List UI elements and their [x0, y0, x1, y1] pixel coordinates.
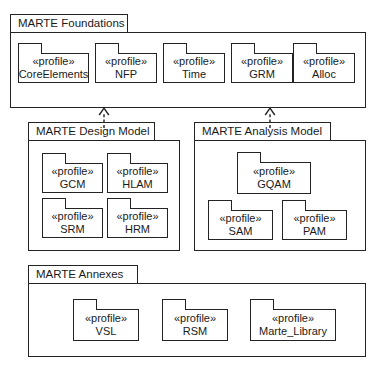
profile-name-label: SRM — [60, 223, 84, 236]
profile-name-label: Time — [182, 68, 206, 81]
profile-package-gqam-body: «profile» GQAM — [237, 162, 311, 194]
folder-tab-icon — [208, 200, 232, 211]
folder-tab-icon — [163, 43, 187, 54]
profile-package-nfp-body: «profile» NFP — [95, 53, 157, 83]
profile-name-label: GRM — [249, 68, 275, 81]
stereotype-label: «profile» — [303, 55, 345, 68]
stereotype-label: «profile» — [51, 210, 93, 223]
stereotype-label: «profile» — [293, 212, 335, 225]
profile-package-hlam-body: «profile» HLAM — [107, 163, 168, 193]
package-group-annexes[interactable]: MARTE Annexes «profile» VSL «profile» RS… — [28, 265, 366, 357]
profile-package-alloc-body: «profile» Alloc — [293, 53, 355, 83]
profile-package-rsm-body: «profile» RSM — [162, 309, 228, 341]
folder-tab-icon — [231, 43, 255, 54]
stereotype-label: «profile» — [116, 165, 158, 178]
profile-name-label: RSM — [183, 325, 207, 338]
package-group-design-model-tab: MARTE Design Model — [28, 122, 155, 141]
folder-tab-icon — [42, 153, 66, 164]
profile-package-marte-library-body: «profile» Marte_Library — [250, 309, 336, 341]
profile-name-label: Marte_Library — [259, 325, 327, 338]
folder-tab-icon — [18, 43, 42, 54]
folder-tab-icon — [162, 299, 186, 310]
package-group-annexes-tab: MARTE Annexes — [28, 265, 138, 284]
dependency-analysis-to-foundations — [262, 106, 278, 128]
stereotype-label: «profile» — [85, 312, 127, 325]
profile-package-time-body: «profile» Time — [163, 53, 225, 83]
stereotype-label: «profile» — [116, 210, 158, 223]
folder-tab-icon — [282, 200, 306, 211]
profile-package-srm-body: «profile» SRM — [42, 208, 103, 238]
folder-tab-icon — [237, 152, 261, 163]
folder-tab-icon — [250, 299, 274, 310]
dependency-design-to-foundations — [96, 106, 112, 128]
profile-package-hrm-body: «profile» HRM — [107, 208, 168, 238]
profile-name-label: NFP — [115, 68, 137, 81]
profile-name-label: HRM — [125, 223, 150, 236]
stereotype-label: «profile» — [105, 55, 147, 68]
folder-tab-icon — [293, 43, 317, 54]
package-group-design-model[interactable]: MARTE Design Model «profile» GCM «profil… — [28, 122, 180, 251]
stereotype-label: «profile» — [253, 165, 295, 178]
profile-name-label: SAM — [229, 225, 253, 238]
folder-tab-icon — [107, 153, 131, 164]
profile-package-vsl-body: «profile» VSL — [73, 309, 139, 341]
stereotype-label: «profile» — [32, 55, 74, 68]
profile-name-label: HLAM — [122, 178, 153, 191]
profile-package-gcm-body: «profile» GCM — [42, 163, 103, 193]
profile-name-label: PAM — [303, 225, 326, 238]
folder-tab-icon — [73, 299, 97, 310]
package-group-design-model-label: MARTE Design Model — [36, 126, 150, 138]
stereotype-label: «profile» — [219, 212, 261, 225]
stereotype-label: «profile» — [173, 55, 215, 68]
folder-tab-icon — [42, 198, 66, 209]
profile-name-label: Alloc — [312, 68, 336, 81]
stereotype-label: «profile» — [174, 312, 216, 325]
profile-name-label: GQAM — [257, 178, 291, 191]
profile-name-label: CoreElements — [19, 68, 89, 81]
profile-package-sam-body: «profile» SAM — [208, 210, 273, 240]
uml-package-diagram: MARTE Foundations «profile» CoreElements… — [0, 0, 375, 371]
stereotype-label: «profile» — [51, 165, 93, 178]
profile-package-core-elements-body: «profile» CoreElements — [18, 53, 89, 83]
package-group-foundations-tab: MARTE Foundations — [10, 14, 128, 33]
stereotype-label: «profile» — [241, 55, 283, 68]
folder-tab-icon — [107, 198, 131, 209]
package-group-foundations-label: MARTE Foundations — [18, 18, 125, 30]
profile-name-label: VSL — [96, 325, 117, 338]
package-group-annexes-label: MARTE Annexes — [36, 269, 123, 281]
package-group-analysis-model[interactable]: MARTE Analysis Model «profile» GQAM «pro… — [194, 122, 366, 251]
package-group-foundations[interactable]: MARTE Foundations «profile» CoreElements… — [10, 14, 366, 108]
profile-name-label: GCM — [60, 178, 86, 191]
stereotype-label: «profile» — [272, 312, 314, 325]
profile-package-grm-body: «profile» GRM — [231, 53, 293, 83]
profile-package-pam-body: «profile» PAM — [282, 210, 347, 240]
folder-tab-icon — [95, 43, 119, 54]
